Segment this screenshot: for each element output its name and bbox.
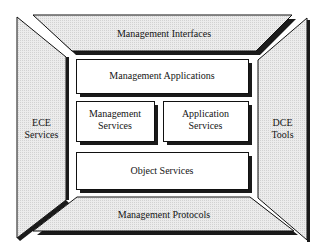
management-applications-label: Management Applications (76, 70, 248, 82)
management-interfaces-label: Management Interfaces (72, 28, 256, 40)
management-services-label: Management Services (76, 108, 154, 132)
ece-services-label: ECE Services (17, 117, 66, 141)
management-protocols-label: Management Protocols (72, 209, 256, 221)
object-services-label: Object Services (76, 165, 248, 177)
dce-tools-label: DCE Tools (258, 117, 307, 141)
application-services-label: Application Services (163, 108, 248, 132)
